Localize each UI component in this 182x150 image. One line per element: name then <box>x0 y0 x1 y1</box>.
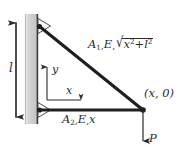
truss-diagram: A1,E,√x2+l2 A2,E,x (x, 0) P l y x <box>0 0 182 150</box>
wall <box>25 14 38 124</box>
node-right-coordinate-label: (x, 0) <box>144 88 174 100</box>
member-1-label: A1,E,√x2+l2 <box>88 38 153 51</box>
load-label-P: P <box>149 133 157 145</box>
member-2-length: x <box>89 112 96 126</box>
axis-y-label: y <box>52 64 58 75</box>
member-1-length-radical: √x2+l2 <box>115 38 153 51</box>
axis-x-label: x <box>66 85 72 96</box>
truss-drawing <box>0 0 182 150</box>
member-2-modulus: E <box>78 112 86 126</box>
node-top <box>37 24 42 29</box>
radicand-plus: + <box>134 37 144 51</box>
member-1-modulus: E <box>104 37 112 51</box>
member-1-radicand: x2+l2 <box>122 38 153 51</box>
radical-sign-icon: √ <box>116 36 123 50</box>
member-2-label: A2,E,x <box>62 114 96 126</box>
radicand-l-exponent: 2 <box>148 37 153 46</box>
length-dimension-label: l <box>9 62 13 74</box>
wall-hatch-band <box>25 14 38 124</box>
node-bottom-left <box>37 107 42 112</box>
